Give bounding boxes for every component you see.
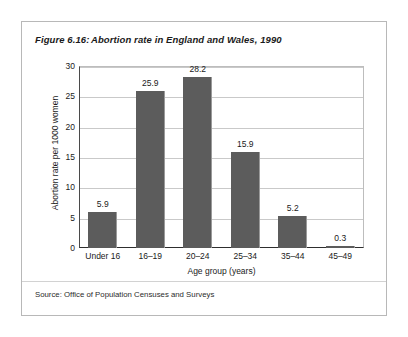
bar xyxy=(326,246,355,249)
bar-value-label: 5.2 xyxy=(269,203,317,213)
bars-layer: 5.925.928.215.95.20.3 xyxy=(79,66,364,248)
bar xyxy=(136,91,165,248)
bar-group xyxy=(269,66,317,248)
x-axis-tick-label: 45–49 xyxy=(310,251,370,261)
y-axis-tick-label: 10 xyxy=(53,182,75,192)
y-axis-tick-label: 30 xyxy=(53,61,75,71)
bar-group xyxy=(174,66,222,248)
bar-value-label: 28.2 xyxy=(174,64,222,74)
bar-group xyxy=(222,66,270,248)
y-axis-tick-labels: 051015202530 xyxy=(51,66,75,248)
figure-box: Figure 6.16:Abortion rate in England and… xyxy=(21,21,387,316)
bar-value-label: 5.9 xyxy=(79,199,127,209)
bar-value-label: 15.9 xyxy=(222,139,270,149)
source-divider xyxy=(22,281,386,282)
bar-group xyxy=(127,66,175,248)
y-axis-tick-label: 25 xyxy=(53,91,75,101)
y-axis-tick-label: 0 xyxy=(53,243,75,253)
bar xyxy=(231,152,260,248)
y-axis-tick-label: 15 xyxy=(53,152,75,162)
x-axis-title: Age group (years) xyxy=(79,266,364,276)
bar xyxy=(278,216,307,248)
bar xyxy=(88,212,117,248)
bar-value-label: 0.3 xyxy=(317,233,365,243)
bar xyxy=(183,77,212,248)
y-axis-tick-label: 5 xyxy=(53,213,75,223)
bar-group xyxy=(79,66,127,248)
bar-value-label: 25.9 xyxy=(127,78,175,88)
bar-group xyxy=(317,66,365,248)
source-note: Source: Office of Population Censuses an… xyxy=(35,290,214,299)
x-axis-tick-labels: Under 1616–1920–2425–3435–4445–49 xyxy=(79,251,364,265)
y-axis-tick-label: 20 xyxy=(53,122,75,132)
bar-chart: Abortion rate per 1000 women 05101520253… xyxy=(22,22,388,317)
